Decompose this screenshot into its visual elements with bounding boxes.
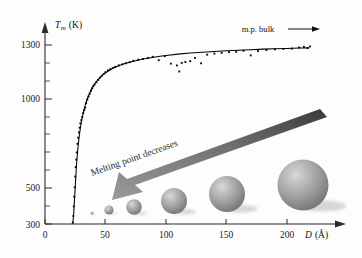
data-point bbox=[228, 51, 230, 53]
x-axis-unit: (Å) bbox=[315, 229, 328, 241]
right-arrow-icon bbox=[335, 221, 346, 228]
x-tick-label-200: 200 bbox=[280, 230, 295, 240]
nanoparticle-sphere-6 bbox=[278, 160, 329, 211]
y-axis-subscript: m bbox=[61, 24, 66, 32]
x-tick-label-50: 50 bbox=[100, 230, 110, 240]
data-point bbox=[176, 64, 178, 66]
nanoparticle-sphere-5 bbox=[209, 176, 245, 212]
x-tick-label-0: 0 bbox=[43, 230, 48, 240]
svg-text:D(Å): D(Å) bbox=[304, 229, 328, 241]
data-point bbox=[200, 62, 202, 64]
data-point bbox=[213, 53, 215, 55]
x-tick-label-100: 100 bbox=[159, 230, 174, 240]
svg-text:Tm(K): Tm(K) bbox=[55, 20, 82, 32]
data-point bbox=[194, 57, 196, 59]
data-point bbox=[189, 60, 191, 62]
y-tick-label-300: 300 bbox=[26, 220, 41, 230]
x-axis-symbol: D bbox=[304, 230, 312, 240]
data-point bbox=[170, 63, 172, 65]
bulk-melting-point-annotation: m.p. bulk bbox=[242, 24, 320, 34]
y-tick-label-1000: 1000 bbox=[21, 94, 40, 104]
data-point bbox=[221, 52, 223, 54]
data-point bbox=[184, 61, 186, 63]
axis-y bbox=[42, 22, 49, 224]
y-axis-label: Tm(K) bbox=[55, 20, 82, 32]
x-tick-marks bbox=[45, 219, 287, 224]
nanoparticle-sphere-2 bbox=[104, 205, 113, 214]
nanoparticle-sphere-1 bbox=[90, 211, 93, 214]
nanoparticle-sphere-3 bbox=[126, 199, 142, 215]
melting-point-chart: 1300 1000 500 300 0 50 100 150 200 Tm(K)… bbox=[0, 0, 362, 258]
y-tick-marks bbox=[45, 45, 52, 224]
data-point bbox=[206, 54, 208, 56]
data-point bbox=[309, 45, 311, 47]
y-tick-label-500: 500 bbox=[26, 183, 41, 193]
data-point bbox=[235, 51, 237, 53]
axis-x bbox=[45, 221, 346, 228]
nanoparticle-sphere-4 bbox=[161, 188, 187, 214]
x-tick-label-150: 150 bbox=[219, 230, 234, 240]
data-point bbox=[158, 59, 160, 61]
right-arrow-icon bbox=[312, 26, 320, 31]
data-point bbox=[250, 54, 252, 56]
figure-container: 1300 1000 500 300 0 50 100 150 200 Tm(K)… bbox=[0, 0, 362, 258]
x-axis-label: D(Å) bbox=[304, 229, 328, 241]
y-axis-unit: (K) bbox=[69, 20, 82, 31]
bulk-annotation-label: m.p. bulk bbox=[242, 24, 275, 34]
y-tick-label-1300: 1300 bbox=[21, 40, 40, 50]
data-point bbox=[178, 71, 180, 73]
data-point bbox=[257, 50, 259, 52]
up-arrow-icon bbox=[42, 22, 49, 33]
data-point bbox=[181, 62, 183, 64]
